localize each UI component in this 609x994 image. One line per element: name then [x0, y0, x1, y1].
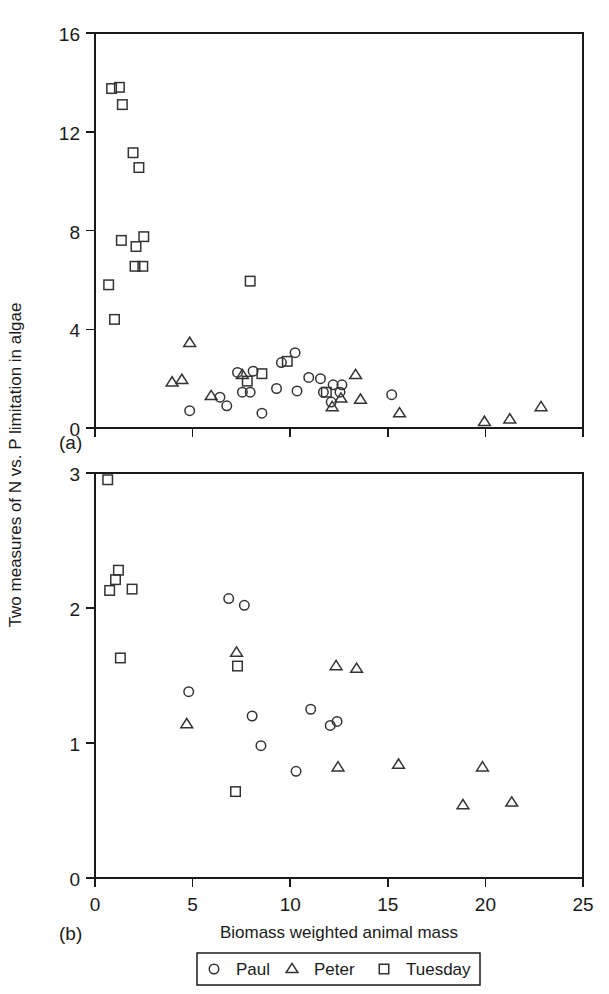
- panel-a-frame: [95, 33, 583, 428]
- circle-marker: [222, 401, 232, 411]
- triangle-marker: [351, 663, 363, 672]
- panel-a-y-ticklabels: 16 12 8 4 0: [59, 24, 81, 440]
- square-marker: [139, 232, 149, 242]
- square-marker: [103, 475, 113, 485]
- panel-b-y-ticklabels: 3 2 1 0: [69, 464, 80, 890]
- square-marker: [117, 236, 127, 246]
- circle-marker: [256, 741, 266, 751]
- square-marker: [131, 242, 141, 252]
- circle-marker: [224, 594, 234, 604]
- square-marker: [118, 100, 128, 110]
- panel-a-ytick-16: 16: [59, 24, 80, 45]
- triangle-marker: [231, 647, 243, 656]
- square-marker: [110, 315, 120, 325]
- circle-marker: [247, 711, 257, 721]
- triangle-marker: [457, 800, 469, 809]
- x-axis-title: Biomass weighted animal mass: [220, 923, 458, 942]
- triangle-marker: [506, 797, 518, 806]
- triangle-marker: [181, 719, 193, 728]
- panel-b-x-ticklabels: 0 5 10 15 20 25: [90, 894, 594, 915]
- series-tuesday: [104, 83, 331, 397]
- figure-container: Two measures of N vs. P limitation in al…: [0, 0, 609, 994]
- panel-b-frame: [95, 473, 583, 878]
- panel-b-xtick-15: 15: [377, 894, 398, 915]
- square-marker: [134, 163, 144, 173]
- legend: PaulPeterTuesday: [197, 953, 480, 985]
- square-marker: [104, 280, 114, 290]
- square-marker: [231, 787, 241, 797]
- square-marker: [257, 369, 267, 379]
- panel-a-data-layer: [104, 83, 547, 426]
- series-paul: [185, 348, 397, 418]
- square-marker: [245, 276, 255, 286]
- panel-b-label: (b): [59, 923, 82, 944]
- panel-b-xtick-25: 25: [572, 894, 593, 915]
- panel-b-xtick-0: 0: [90, 894, 101, 915]
- series-tuesday: [103, 475, 242, 796]
- circle-marker: [272, 384, 282, 394]
- panel-b-xtick-5: 5: [187, 894, 198, 915]
- circle-marker: [240, 601, 250, 611]
- triangle-marker: [504, 414, 516, 423]
- triangle-marker: [393, 759, 405, 768]
- square-marker: [127, 584, 137, 594]
- circle-marker: [215, 392, 225, 402]
- circle-marker: [292, 386, 302, 396]
- series-peter: [166, 337, 547, 425]
- circle-marker: [316, 374, 326, 384]
- panel-a-ytick-8: 8: [69, 222, 80, 243]
- triangle-marker: [330, 660, 342, 669]
- panel-b-data-layer: [103, 475, 518, 809]
- circle-marker: [291, 767, 301, 777]
- panel-a-label: (a): [59, 432, 82, 453]
- legend-label-peter: Peter: [314, 960, 355, 979]
- triangle-marker: [332, 762, 344, 771]
- triangle-marker: [394, 408, 406, 417]
- series-paul: [184, 594, 342, 776]
- square-marker: [128, 148, 138, 158]
- panel-b-xtick-20: 20: [475, 894, 496, 915]
- panel-b-y-ticks: [86, 473, 95, 878]
- panel-a-x-ticks: [95, 428, 583, 437]
- triangle-marker: [184, 337, 196, 346]
- triangle-marker: [477, 762, 489, 771]
- square-marker: [233, 661, 243, 671]
- triangle-marker: [350, 369, 362, 378]
- legend-label-tuesday: Tuesday: [406, 960, 471, 979]
- circle-marker: [304, 373, 314, 383]
- series-peter: [181, 647, 518, 809]
- circle-marker: [257, 408, 267, 418]
- legend-items: PaulPeterTuesday: [209, 960, 471, 979]
- panel-a-ytick-12: 12: [59, 123, 80, 144]
- panel-b-ytick-3: 3: [69, 464, 80, 485]
- panel-b-ytick-0: 0: [69, 869, 80, 890]
- panel-b-xtick-10: 10: [280, 894, 301, 915]
- panel-b-x-ticks: [95, 878, 583, 887]
- square-marker: [105, 586, 115, 596]
- circle-marker: [387, 390, 397, 400]
- triangle-marker: [176, 374, 188, 383]
- triangle-marker: [535, 401, 547, 410]
- square-marker: [116, 653, 126, 663]
- panel-a-y-ticks: [86, 33, 95, 428]
- square-marker: [111, 575, 121, 585]
- triangle-marker: [166, 377, 178, 386]
- panel-a-ytick-4: 4: [69, 320, 80, 341]
- panel-a: 16 12 8 4 0 (a): [59, 24, 583, 453]
- circle-marker: [184, 687, 194, 697]
- y-axis-title: Two measures of N vs. P limitation in al…: [6, 303, 25, 628]
- scatter-figure-svg: Two measures of N vs. P limitation in al…: [0, 0, 609, 994]
- panel-b: 3 2 1 0 0 5 10 15 20 25: [59, 464, 594, 944]
- legend-label-paul: Paul: [236, 960, 270, 979]
- circle-marker: [319, 387, 329, 397]
- circle-marker: [306, 705, 316, 715]
- triangle-marker: [355, 394, 367, 403]
- circle-marker: [185, 406, 195, 416]
- panel-b-ytick-1: 1: [69, 734, 80, 755]
- triangle-marker: [479, 416, 491, 425]
- panel-b-ytick-2: 2: [69, 599, 80, 620]
- square-marker: [114, 565, 124, 575]
